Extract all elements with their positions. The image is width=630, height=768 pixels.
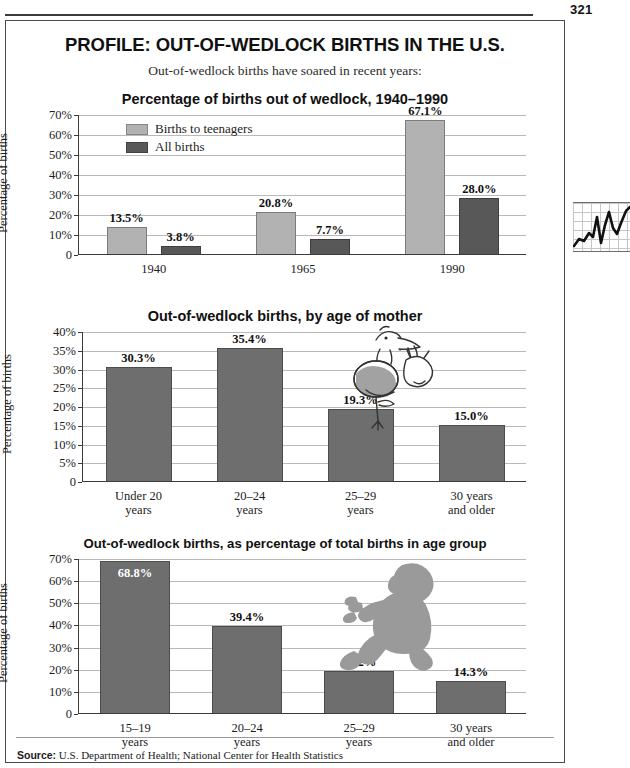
y-tick-label: 40% [49, 168, 72, 183]
y-tick-mark [74, 115, 78, 116]
chart-1-y-axis-label: Percentage of births [0, 133, 11, 233]
x-axis-label: 1990 [378, 262, 527, 276]
source-divider [16, 737, 554, 738]
y-tick-mark [78, 463, 82, 464]
x-axis-label: 25–29years [303, 721, 415, 749]
y-tick-mark [74, 670, 78, 671]
y-tick-mark [78, 370, 82, 371]
chart-2-title: Out-of-wedlock births, by age of mother [6, 308, 564, 324]
bar-value-label: 28.0% [462, 182, 496, 197]
page: 321 PROFILE: OUT-OF-WEDLOCK BIRTHS IN TH… [0, 0, 630, 768]
y-tick-label: 70% [49, 552, 72, 567]
profile-panel: PROFILE: OUT-OF-WEDLOCK BIRTHS IN THE U.… [5, 20, 565, 763]
bar: 7.7% [310, 239, 350, 254]
bar: 39.4% [212, 626, 282, 713]
chart-3-y-ticks: 010%20%30%40%50%60%70% [30, 559, 72, 714]
gridline [79, 175, 526, 176]
page-number: 321 [570, 2, 593, 17]
y-tick-mark [74, 692, 78, 693]
x-axis-label: 30 yearsand older [415, 721, 527, 749]
gridline [79, 195, 526, 196]
crawling-baby-silhouette-illustration [328, 559, 458, 674]
line-chart-doodle-icon [573, 202, 630, 252]
x-axis-label: 20–24years [191, 721, 303, 749]
y-tick-label: 35% [53, 343, 76, 358]
x-axis-label: 30 yearsand older [416, 489, 527, 517]
y-tick-mark [74, 714, 78, 715]
gridline [83, 332, 526, 333]
y-tick-mark [74, 135, 78, 136]
y-tick-mark [74, 235, 78, 236]
y-tick-label: 25% [53, 381, 76, 396]
chart-1-title: Percentage of births out of wedlock, 194… [6, 91, 564, 107]
y-tick-label: 5% [59, 456, 76, 471]
y-tick-label: 30% [49, 188, 72, 203]
bar: 14.3% [436, 681, 506, 713]
y-tick-mark [78, 332, 82, 333]
bar-value-label: 35.4% [232, 332, 266, 347]
x-axis-label: 25–29years [305, 489, 416, 517]
bar-value-label: 39.4% [230, 610, 264, 625]
y-tick-mark [78, 482, 82, 483]
chart-1-legend: Births to teenagers All births [126, 121, 252, 157]
y-tick-mark [78, 388, 82, 389]
bar-value-label: 7.7% [316, 223, 344, 238]
y-tick-mark [78, 445, 82, 446]
bar: 68.8% [100, 561, 170, 713]
y-tick-mark [78, 351, 82, 352]
page-title: PROFILE: OUT-OF-WEDLOCK BIRTHS IN THE U.… [6, 34, 564, 56]
x-axis-label: 1965 [228, 262, 377, 276]
gridline [79, 115, 526, 116]
y-tick-label: 0 [66, 707, 72, 722]
y-tick-label: 30% [49, 640, 72, 655]
bar: 30.3% [106, 367, 172, 481]
bar-value-label: 20.8% [259, 196, 293, 211]
chart-1: Percentage of births out of wedlock, 194… [6, 91, 564, 276]
y-tick-mark [74, 603, 78, 604]
y-tick-mark [78, 426, 82, 427]
bar-value-label: 13.5% [109, 211, 143, 226]
bar: 19.2% [324, 671, 394, 714]
y-tick-label: 40% [53, 325, 76, 340]
bar: 13.5% [107, 227, 147, 254]
y-tick-label: 0 [70, 475, 76, 490]
bar-value-label: 30.3% [121, 351, 155, 366]
y-tick-label: 15% [53, 418, 76, 433]
y-tick-mark [74, 559, 78, 560]
top-rule [5, 14, 533, 16]
y-tick-mark [74, 195, 78, 196]
legend-label-0: Births to teenagers [155, 121, 252, 137]
source-label: Source: [17, 749, 56, 761]
chart-3-y-axis-label: Percentage of births [0, 583, 11, 683]
y-tick-label: 10% [49, 228, 72, 243]
y-tick-mark [74, 648, 78, 649]
chart-3-plot-area: 68.8%15–19years39.4%20–24years19.2%25–29… [78, 559, 526, 714]
y-tick-label: 0 [66, 248, 72, 263]
bar-value-label: 14.3% [454, 665, 488, 680]
y-tick-label: 70% [49, 108, 72, 123]
y-tick-mark [74, 175, 78, 176]
x-axis-label: 1940 [79, 262, 228, 276]
y-tick-label: 60% [49, 128, 72, 143]
legend-item-1: All births [126, 139, 252, 155]
y-tick-label: 40% [49, 618, 72, 633]
chart-3-title: Out-of-wedlock births, as percentage of … [6, 536, 564, 551]
bar-value-label: 67.1% [408, 104, 442, 119]
y-tick-label: 20% [49, 662, 72, 677]
x-axis-label: 15–19years [79, 721, 191, 749]
bar: 28.0% [459, 198, 499, 254]
y-tick-label: 20% [53, 400, 76, 415]
bar: 35.4% [217, 348, 283, 481]
chart-2-y-ticks: 05%10%15%20%25%30%35%40% [34, 332, 76, 482]
x-axis-label: 20–24years [194, 489, 305, 517]
source-note: Source: U.S. Department of Health; Natio… [17, 749, 343, 761]
chart-1-y-ticks: 010%20%30%40%50%60%70% [30, 115, 72, 255]
bar: 20.8% [256, 212, 296, 254]
legend-swatch-0 [126, 124, 148, 135]
chart-3: Out-of-wedlock births, as percentage of … [6, 536, 564, 745]
page-subtitle: Out-of-wedlock births have soared in rec… [6, 63, 564, 79]
y-tick-mark [74, 255, 78, 256]
y-tick-mark [74, 155, 78, 156]
y-tick-label: 50% [49, 148, 72, 163]
bar-value-label: 15.0% [454, 409, 488, 424]
